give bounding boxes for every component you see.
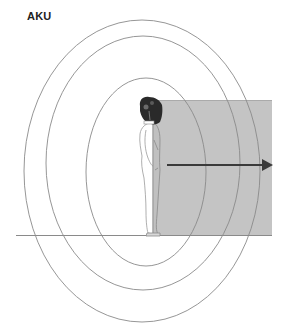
diagram-canvas [0,0,284,335]
human-figure [140,122,160,236]
headgear-icon [140,97,163,125]
shaded-region [153,100,272,236]
